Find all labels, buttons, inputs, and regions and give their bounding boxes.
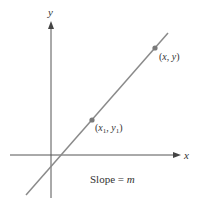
x-axis-arrowhead-icon (173, 152, 181, 158)
slope-caption: Slope = m (90, 173, 135, 185)
point-x1-y1 (89, 117, 94, 122)
coordinate-diagram: y x (x1, y1) (x, y) Slope = m (0, 0, 198, 208)
sloped-line (26, 33, 168, 195)
point-x-y-label: (x, y) (159, 51, 180, 63)
y-axis-arrowhead-icon (48, 21, 54, 29)
y-axis-label: y (47, 6, 53, 18)
point-x-y (152, 45, 157, 50)
point-x1-y1-label: (x1, y1) (95, 122, 123, 135)
x-axis-label: x (183, 149, 189, 161)
